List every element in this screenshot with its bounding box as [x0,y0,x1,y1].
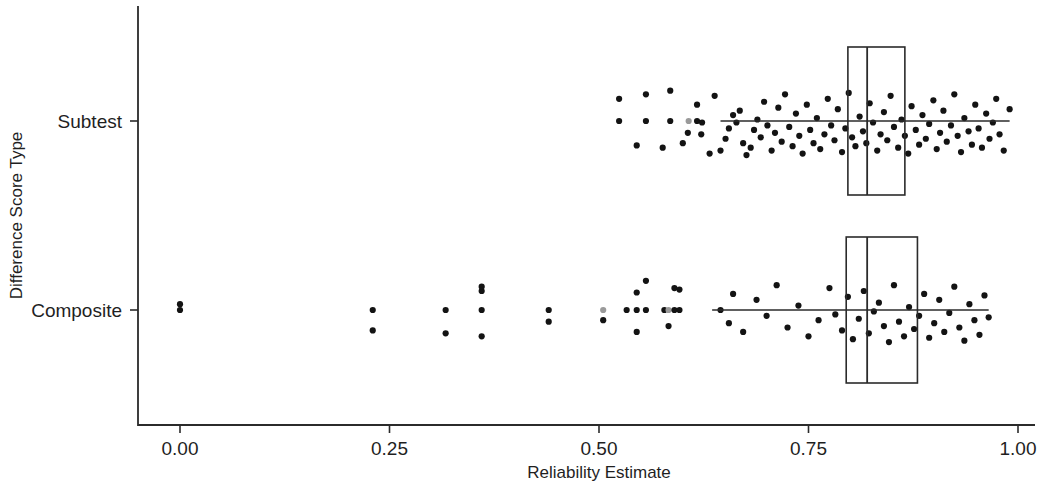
x-tick-label: 1.00 [1000,438,1037,459]
data-point [443,330,449,336]
data-point [667,118,673,124]
data-point [774,282,780,288]
data-point [805,333,811,339]
data-point [941,329,947,335]
data-point [665,307,671,313]
data-point [634,289,640,295]
data-point [707,150,713,156]
data-point [671,285,677,291]
data-point [740,140,746,146]
data-point [979,145,985,151]
data-point [905,150,911,156]
axis-frame [138,6,1035,425]
labels-layer: 0.000.250.500.751.00SubtestCompositeReli… [7,111,1036,482]
data-point [800,150,806,156]
data-point [857,113,863,119]
data-point [961,338,967,344]
data-point [956,324,962,330]
data-point [916,142,922,148]
data-point [764,122,770,128]
data-point [856,316,862,322]
data-point [643,118,649,124]
data-point [940,108,946,114]
data-point [911,326,917,332]
data-point [934,146,940,152]
x-axis-title: Reliability Estimate [527,463,671,482]
data-point [737,108,743,114]
boxes-layer [712,47,1009,383]
data-point [986,314,992,320]
data-point [921,291,927,297]
data-point [634,329,640,335]
data-point [722,136,728,142]
data-point [479,307,485,313]
data-point [726,125,732,131]
data-point [804,102,810,108]
y-category-label: Subtest [58,111,123,132]
data-point [370,307,376,313]
data-point [643,307,649,313]
data-point [624,307,630,313]
data-point [971,317,977,323]
data-point [986,136,992,142]
data-point [966,301,972,307]
data-point [370,327,376,333]
data-point [948,122,954,128]
data-point [817,146,823,152]
data-point [976,332,982,338]
data-point [753,297,759,303]
data-point [839,327,845,333]
data-point [958,149,964,155]
data-point [832,311,838,317]
data-point [676,307,682,313]
data-point [784,324,790,330]
axes-layer [130,6,1035,433]
data-point [913,127,919,133]
data-point [951,91,957,97]
data-point [772,130,778,136]
data-point [177,307,183,313]
data-point [779,139,785,145]
data-point [937,130,943,136]
data-point [807,127,813,133]
data-point [895,145,901,151]
data-point [782,91,788,97]
data-point [546,307,552,313]
data-point [634,142,640,148]
data-point [717,148,723,154]
data-point [944,139,950,145]
data-point [891,282,897,288]
data-point [680,140,686,146]
x-tick-label: 0.00 [162,438,199,459]
data-point [852,143,858,149]
data-point [751,127,757,133]
data-point [825,96,831,102]
data-point [919,112,925,118]
data-point [839,149,845,155]
data-point [546,319,552,325]
data-point [600,307,606,313]
data-point [981,292,987,298]
data-point [761,99,767,105]
data-point [993,96,999,102]
data-point [826,285,832,291]
data-point [850,336,856,342]
y-axis-title: Difference Score Type [7,132,26,300]
data-point [835,106,841,112]
data-point [616,118,622,124]
data-point [861,288,867,294]
data-point [931,320,937,326]
data-point [901,333,907,339]
data-point [730,112,736,118]
data-point [616,96,622,102]
chart-figure: 0.000.250.500.751.00SubtestCompositeReli… [0,0,1064,492]
data-point [634,307,640,313]
data-point [876,300,882,306]
data-point [643,278,649,284]
data-point [740,329,746,335]
data-point [881,109,887,115]
data-point [698,131,704,137]
data-point [1001,148,1007,154]
data-point [786,124,792,130]
data-point [891,124,897,130]
